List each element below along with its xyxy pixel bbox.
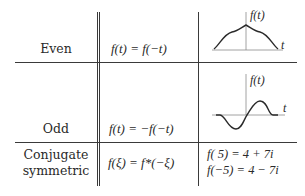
even-plot-x-label: t — [281, 38, 285, 52]
odd-function-plot: f(t) t — [212, 73, 287, 129]
odd-plot-x-label: t — [283, 101, 287, 115]
example-plots: f(t) t f(t) t — [0, 0, 305, 196]
odd-plot-y-label: f(t) — [250, 73, 265, 87]
even-function-plot: f(t) t — [212, 8, 285, 52]
even-plot-y-label: f(t) — [250, 8, 265, 22]
